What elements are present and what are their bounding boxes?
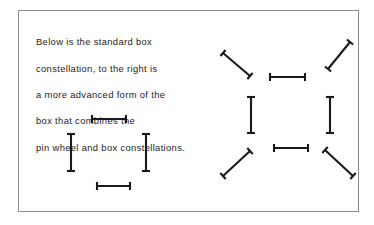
caption-line-2: constellation, to the right is [36,62,251,75]
caption-line-5: pin wheel and box constellations. [36,141,251,154]
caption-line-1: Below is the standard box [36,35,251,48]
diagram-page: Below is the standard box constellation,… [0,0,374,225]
caption-text: Below is the standard box constellation,… [36,22,251,167]
caption-line-3: a more advanced form of the [36,88,251,101]
caption-line-4: box that combines the [36,114,251,127]
